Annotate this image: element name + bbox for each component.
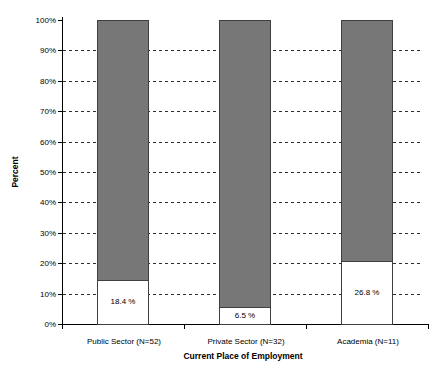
y-tick-mark bbox=[58, 263, 62, 264]
y-tick-mark bbox=[58, 172, 62, 173]
x-category-label-academia-n-11: Academia (N=11) bbox=[337, 337, 399, 346]
x-tick-mark bbox=[306, 325, 307, 329]
y-tick-label: 0% bbox=[20, 321, 56, 329]
y-axis-line bbox=[62, 17, 63, 325]
bar-lower-segment: 6.5 % bbox=[220, 307, 270, 324]
y-tick-label: 50% bbox=[20, 169, 56, 177]
y-tick-label: 20% bbox=[20, 260, 56, 268]
y-tick-label: 40% bbox=[20, 199, 56, 207]
y-tick-label: 80% bbox=[20, 78, 56, 86]
y-tick-mark bbox=[58, 233, 62, 234]
x-tick-mark bbox=[428, 325, 429, 329]
y-tick-mark bbox=[58, 142, 62, 143]
y-tick-label: 60% bbox=[20, 139, 56, 147]
y-tick-mark bbox=[58, 50, 62, 51]
bar-public-sector-n-52: 18.4 % bbox=[97, 20, 149, 325]
y-tick-label: 70% bbox=[20, 108, 56, 116]
bar-lower-segment: 18.4 % bbox=[98, 280, 148, 324]
y-tick-label: 100% bbox=[20, 17, 56, 25]
bar-academia-n-11: 26.8 % bbox=[341, 20, 393, 325]
y-tick-label: 30% bbox=[20, 230, 56, 238]
bar-value-label: 26.8 % bbox=[355, 289, 380, 297]
y-tick-label: 10% bbox=[20, 291, 56, 299]
y-tick-label: 90% bbox=[20, 47, 56, 55]
bar-value-label: 6.5 % bbox=[235, 312, 255, 320]
y-tick-mark bbox=[58, 111, 62, 112]
y-axis-title: Percent bbox=[10, 156, 20, 187]
y-tick-mark bbox=[58, 294, 62, 295]
x-category-label-private-sector-n-32: Private Sector (N=32) bbox=[207, 337, 284, 346]
stacked-bar-chart-figure: Percent Current Place of Employment 0%10… bbox=[0, 0, 440, 370]
x-axis-title: Current Place of Employment bbox=[183, 351, 302, 361]
y-tick-mark bbox=[58, 81, 62, 82]
x-category-label-public-sector-n-52: Public Sector (N=52) bbox=[87, 337, 161, 346]
y-tick-mark bbox=[58, 202, 62, 203]
bar-lower-segment: 26.8 % bbox=[342, 261, 392, 324]
x-tick-mark bbox=[62, 325, 63, 329]
x-tick-mark bbox=[184, 325, 185, 329]
y-tick-mark bbox=[58, 20, 62, 21]
bar-value-label: 18.4 % bbox=[111, 298, 136, 306]
bar-private-sector-n-32: 6.5 % bbox=[219, 20, 271, 325]
